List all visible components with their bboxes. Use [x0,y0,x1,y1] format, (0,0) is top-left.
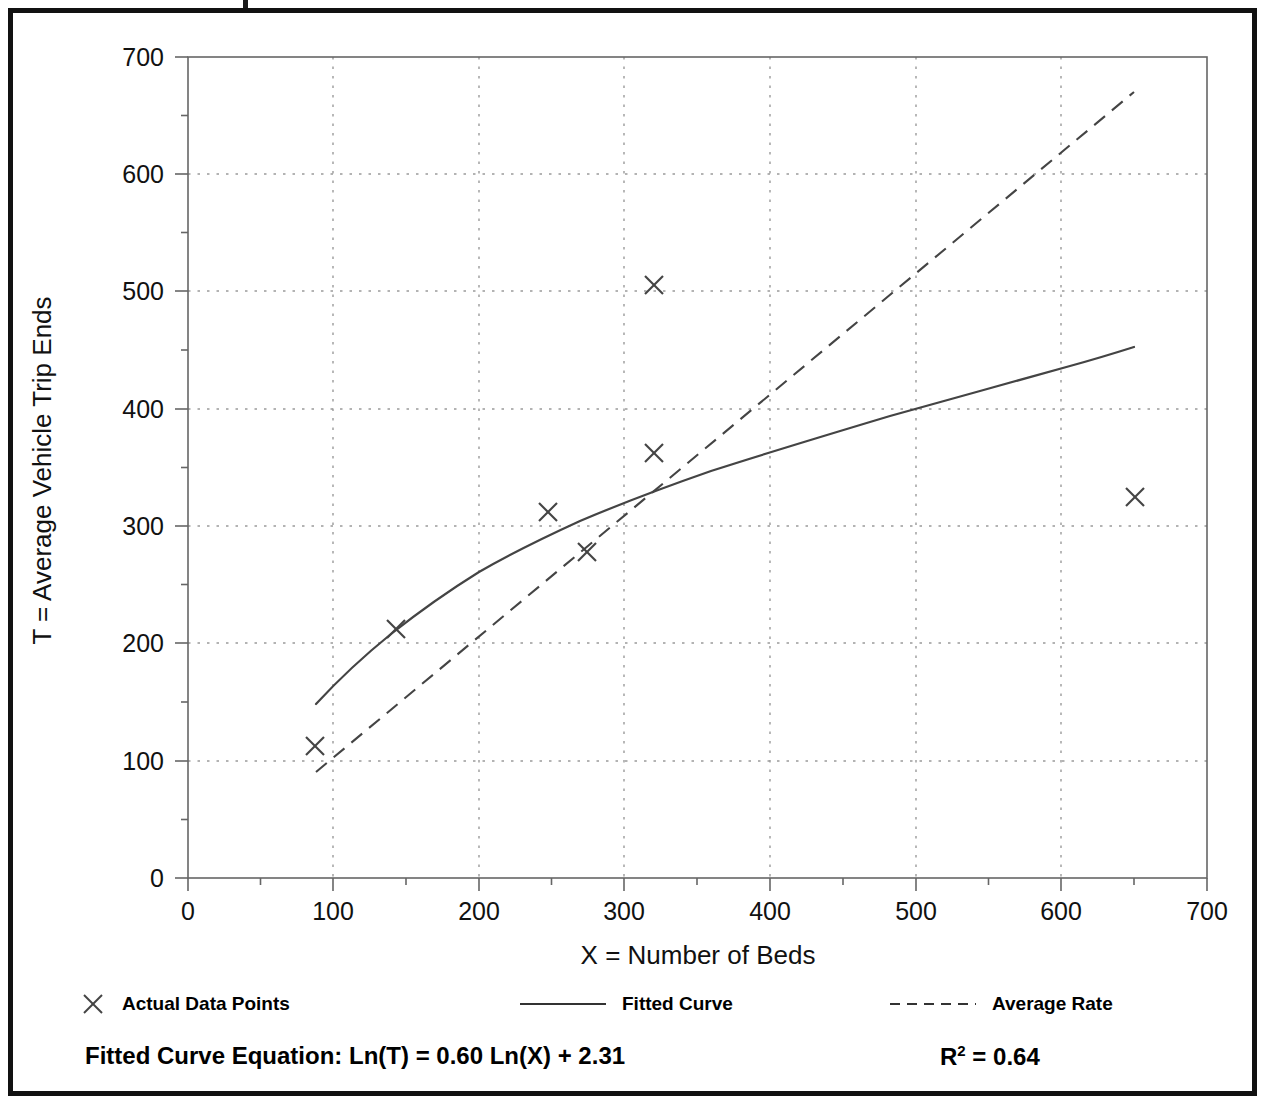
series-average-rate [316,92,1134,772]
r-squared-number: = 0.64 [966,1043,1040,1070]
r-squared-exponent: 2 [957,1042,965,1059]
x-axis-ticks [188,878,1207,891]
data-point-marker [1126,488,1144,506]
data-point-marker [387,620,405,638]
x-tick-label: 400 [735,899,805,924]
x-tick-label: 100 [298,899,368,924]
plot-frame [188,57,1207,878]
legend-label: Fitted Curve [622,993,733,1015]
y-tick-label: 300 [100,514,164,539]
series-fitted-curve [316,347,1134,704]
legend-label: Actual Data Points [122,993,290,1015]
y-tick-label: 700 [100,45,164,70]
y-tick-label: 500 [100,279,164,304]
x-marker-icon [80,991,106,1017]
legend-entry-fitted-curve[interactable]: Fitted Curve [520,985,733,1023]
x-tick-label: 500 [881,899,951,924]
legend-entry-actual-data-points[interactable]: Actual Data Points [80,985,290,1023]
chart-legend: Actual Data Points Fitted Curve Average … [60,985,1210,1023]
legend-label: Average Rate [992,993,1113,1015]
dashed-line-icon [890,997,976,1011]
grid-horizontal [188,174,1207,761]
y-tick-label: 200 [100,631,164,656]
x-tick-label: 200 [444,899,514,924]
x-tick-label: 700 [1172,899,1242,924]
data-point-marker [645,444,663,462]
x-tick-label: 0 [153,899,223,924]
y-tick-label: 400 [100,397,164,422]
data-point-marker [539,503,557,521]
grid-vertical [333,57,1061,878]
x-tick-label: 600 [1026,899,1096,924]
y-tick-label: 0 [100,866,164,891]
y-axis-title: T = Average Vehicle Trip Ends [27,261,58,681]
y-axis-ticks [175,57,188,878]
r-squared-value: R2 = 0.64 [940,1042,1040,1071]
solid-line-icon [520,997,606,1011]
chart-footer: Fitted Curve Equation: Ln(T) = 0.60 Ln(X… [60,1038,1210,1084]
fitted-curve-equation: Fitted Curve Equation: Ln(T) = 0.60 Ln(X… [85,1042,625,1070]
legend-entry-average-rate[interactable]: Average Rate [890,985,1113,1023]
r-squared-symbol: R [940,1043,957,1070]
data-point-marker [306,737,324,755]
chart-plot-area: 700 600 500 400 300 200 100 0 0 100 200 … [0,0,1273,1110]
series-actual-data-points [306,276,1144,755]
x-axis-title: X = Number of Beds [288,940,1108,971]
y-tick-label: 100 [100,749,164,774]
y-tick-label: 600 [100,162,164,187]
x-tick-label: 300 [589,899,659,924]
